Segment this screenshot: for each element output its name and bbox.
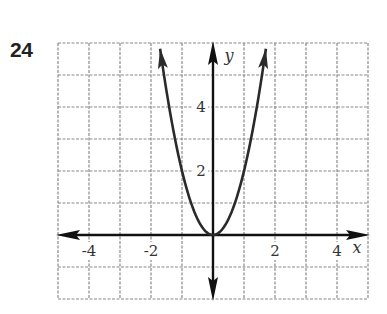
x-tick-label: -4 bbox=[82, 242, 97, 260]
tick-labels: -4-22424xy bbox=[75, 46, 366, 260]
y-tick-label: 4 bbox=[196, 98, 206, 116]
y-axis-label: y bbox=[223, 46, 234, 65]
x-tick-label: -2 bbox=[144, 242, 159, 260]
x-tick-label: 2 bbox=[270, 242, 280, 260]
parabola-graph: -4-22424xy bbox=[0, 0, 387, 314]
x-tick-label: 4 bbox=[332, 242, 342, 260]
x-axis-label: x bbox=[352, 238, 361, 257]
y-tick-label: 2 bbox=[196, 162, 206, 180]
